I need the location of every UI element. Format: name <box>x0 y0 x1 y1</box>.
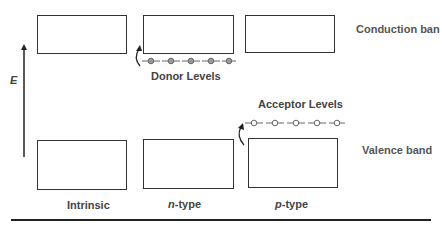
intrinsic-conduction-band <box>37 15 127 54</box>
intrinsic-label: Intrinsic <box>67 199 110 211</box>
acceptor-levels-label: Acceptor Levels <box>258 98 343 110</box>
n-type-conduction-band <box>143 15 234 54</box>
energy-axis-label: E <box>10 74 17 86</box>
valence-band-label: Valence band <box>362 144 432 156</box>
n-type-label: n-type <box>168 198 201 210</box>
n-suffix: -type <box>175 198 201 210</box>
p-type-valence-band <box>248 138 338 188</box>
conduction-band-label: Conduction ban <box>356 23 440 35</box>
n-type-valence-band <box>143 139 234 189</box>
p-suffix: -type <box>282 198 308 210</box>
p-type-conduction-band <box>245 15 335 53</box>
p-prefix: p <box>275 198 282 210</box>
p-type-label: p-type <box>275 198 308 210</box>
donor-levels-label: Donor Levels <box>151 70 221 82</box>
n-prefix: n <box>168 198 175 210</box>
intrinsic-valence-band <box>37 140 127 190</box>
